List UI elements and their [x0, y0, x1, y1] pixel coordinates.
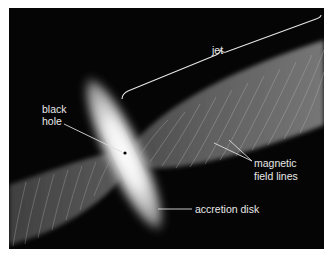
jet-label: jet: [212, 44, 223, 56]
accretion-disk-label: accretion disk: [195, 203, 259, 215]
left-jet: [9, 152, 125, 245]
magnetic-label-line2: field lines: [254, 170, 298, 182]
diagram-frame: jet black hole magnetic field lines accr…: [9, 8, 324, 249]
black-hole-label-line1: black: [42, 103, 67, 115]
black-hole-dot: [123, 151, 126, 154]
black-hole-illustration: [9, 8, 324, 249]
magnetic-label-line1: magnetic: [254, 157, 297, 169]
black-hole-label-line2: hole: [42, 115, 62, 127]
